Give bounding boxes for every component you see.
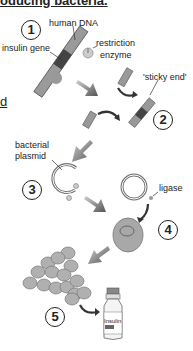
label-plasmid: plasmid	[15, 151, 46, 161]
step-4-badge: 4	[158, 220, 178, 240]
label-enzyme: enzyme	[100, 50, 132, 60]
label-human-dna: human DNA	[49, 18, 98, 28]
step-1-badge: 1	[21, 20, 41, 40]
label-sticky-end: 'sticky end'	[143, 72, 186, 82]
label-vial: Insulin	[104, 318, 121, 324]
bacteria-colony-icon	[23, 247, 91, 305]
step-2-badge: 2	[153, 110, 173, 130]
insulin-vial-icon	[104, 288, 122, 340]
label-insulin-gene: insulin gene	[2, 43, 50, 53]
dna-strand	[34, 26, 88, 97]
label-bacterial: bacterial	[15, 140, 49, 150]
bacterium-icon	[113, 218, 143, 252]
step-5-badge: 5	[45, 307, 65, 327]
step-3-badge: 3	[22, 180, 42, 200]
label-restriction: restriction	[96, 38, 135, 48]
arrow-icon	[76, 80, 98, 96]
label-ligase: ligase	[159, 183, 183, 193]
